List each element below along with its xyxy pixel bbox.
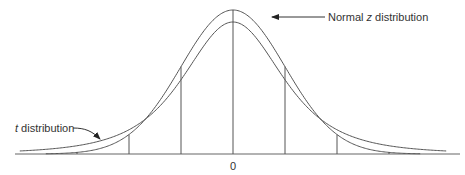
- t-arrow-icon: [73, 128, 100, 139]
- normal-z-label: Normal z distribution: [328, 11, 428, 23]
- center-zero-label: 0: [230, 160, 236, 172]
- distribution-diagram: Normal z distribution t distribution 0: [0, 0, 465, 175]
- t-distribution-label: t distribution: [15, 122, 74, 134]
